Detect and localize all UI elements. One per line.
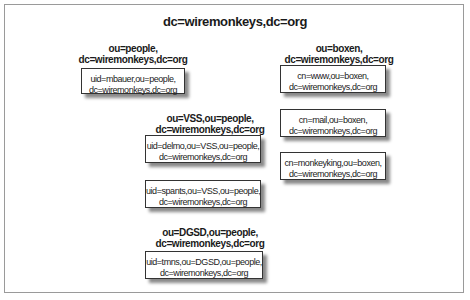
entry-monkeyking-line1: cn=monkeyking,ou=boxen,	[281, 158, 385, 169]
entry-delmo: uid=delmo,ou=VSS,ou=people, dc=wiremonke…	[145, 135, 261, 163]
ou-boxen-label: ou=boxen, dc=wiremonkeys,dc=org	[284, 43, 394, 65]
entry-mbauer: uid=mbauer,ou=people, dc=wiremonkeys,dc=…	[81, 68, 185, 94]
entry-www-line2: dc=wiremonkeys,dc=org	[281, 82, 385, 93]
entry-www-line1: cn=www,ou=boxen,	[281, 71, 385, 82]
ou-dgsd-line2: dc=wiremonkeys,dc=org	[152, 238, 268, 249]
ou-vss-line1: ou=VSS,ou=people,	[152, 113, 268, 124]
ou-vss-line2: dc=wiremonkeys,dc=org	[152, 124, 268, 135]
ou-boxen-line2: dc=wiremonkeys,dc=org	[284, 54, 394, 65]
ou-dgsd-label: ou=DGSD,ou=people, dc=wiremonkeys,dc=org	[152, 227, 268, 249]
entry-mail: cn=mail,ou=boxen, dc=wiremonkeys,dc=org	[280, 109, 386, 137]
entry-tmns-line1: uid=tmns,ou=DGSD,ou=people,	[146, 257, 262, 268]
entry-mbauer-line2: dc=wiremonkeys,dc=org	[82, 85, 184, 96]
ou-boxen-line1: ou=boxen,	[284, 43, 394, 54]
root-dn-label: dc=wiremonkeys,dc=org	[0, 14, 470, 29]
entry-www: cn=www,ou=boxen, dc=wiremonkeys,dc=org	[280, 65, 386, 93]
ou-vss-label: ou=VSS,ou=people, dc=wiremonkeys,dc=org	[152, 113, 268, 135]
entry-spants-line2: dc=wiremonkeys,dc=org	[146, 197, 260, 208]
entry-delmo-line2: dc=wiremonkeys,dc=org	[146, 152, 260, 163]
entry-tmns: uid=tmns,ou=DGSD,ou=people, dc=wiremonke…	[145, 251, 263, 279]
entry-mail-line2: dc=wiremonkeys,dc=org	[281, 126, 385, 137]
entry-spants-line1: uid=spants,ou=VSS,ou=people,	[146, 186, 260, 197]
entry-monkeyking-line2: dc=wiremonkeys,dc=org	[281, 169, 385, 180]
entry-mbauer-line1: uid=mbauer,ou=people,	[82, 74, 184, 85]
entry-monkeyking: cn=monkeyking,ou=boxen, dc=wiremonkeys,d…	[280, 152, 386, 180]
ou-people-line2: dc=wiremonkeys,dc=org	[78, 54, 188, 65]
entry-tmns-line2: dc=wiremonkeys,dc=org	[146, 268, 262, 279]
entry-mail-line1: cn=mail,ou=boxen,	[281, 115, 385, 126]
ou-people-line1: ou=people,	[78, 43, 188, 54]
entry-delmo-line1: uid=delmo,ou=VSS,ou=people,	[146, 141, 260, 152]
ou-dgsd-line1: ou=DGSD,ou=people,	[152, 227, 268, 238]
ou-people-label: ou=people, dc=wiremonkeys,dc=org	[78, 43, 188, 65]
entry-spants: uid=spants,ou=VSS,ou=people, dc=wiremonk…	[145, 180, 261, 208]
